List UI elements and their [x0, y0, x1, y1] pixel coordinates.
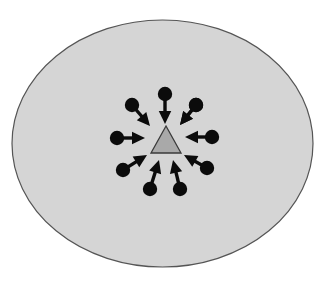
- diagram-root: [0, 0, 326, 282]
- radial-convergence-diagram: [0, 0, 326, 282]
- arrow-sse-tail-dot: [173, 182, 187, 196]
- arrow-ese-tail-dot: [200, 161, 214, 175]
- arrow-wsw-tail-dot: [116, 163, 130, 177]
- arrow-nnw-tail-dot: [189, 98, 203, 112]
- arrow-n-tail-dot: [158, 87, 172, 101]
- arrow-ene-tail-dot: [205, 130, 219, 144]
- arrow-wnw-tail-dot: [125, 98, 139, 112]
- arrow-ssw-tail-dot: [143, 182, 157, 196]
- arrow-w-tail-dot: [110, 131, 124, 145]
